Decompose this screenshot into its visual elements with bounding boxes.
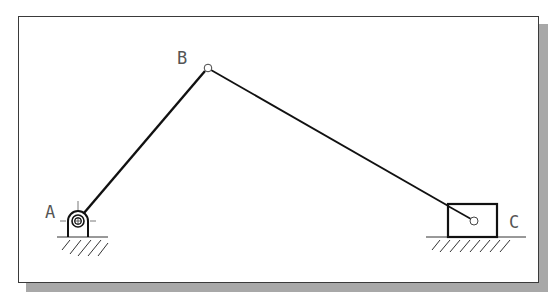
pivot-c-icon <box>470 217 478 225</box>
connecting-rod-bc <box>211 70 471 219</box>
ground-c <box>426 237 526 252</box>
crank-link-ab <box>84 71 205 213</box>
pivot-b-icon <box>204 64 212 72</box>
label-a: A <box>45 202 55 222</box>
label-c: C <box>509 212 519 232</box>
ground-a <box>57 237 108 256</box>
label-b: B <box>177 48 187 68</box>
mechanism-drawing: B A C <box>0 0 560 306</box>
diagram-canvas: B A C <box>0 0 560 306</box>
